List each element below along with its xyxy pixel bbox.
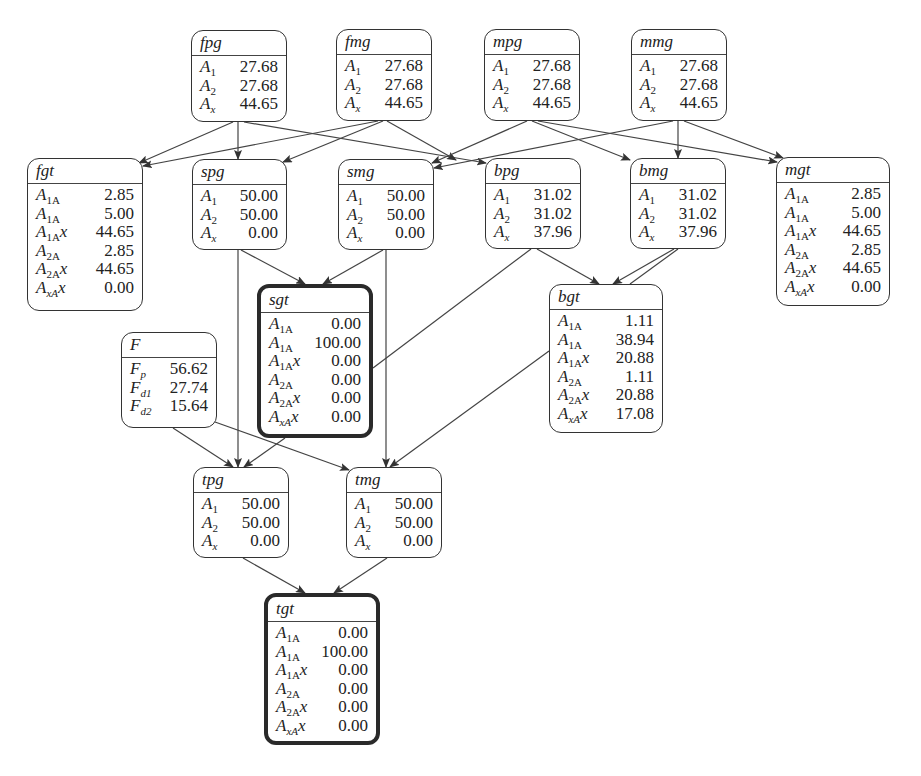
node-row: A2Ax20.88	[558, 386, 654, 405]
row-label: A1A	[785, 185, 809, 204]
node-fpg[interactable]: fpg A127.68A227.68Ax44.65	[191, 30, 287, 122]
node-F[interactable]: F Fp56.62Fd127.74Fd215.64	[121, 332, 217, 428]
node-bgt[interactable]: bgt A1A1.11A1A38.94A1Ax20.88A2A1.11A2Ax2…	[549, 284, 663, 433]
row-label: A2A	[785, 241, 809, 260]
edge-mmg-mgt	[684, 121, 783, 158]
node-fgt[interactable]: fgt A1A2.85A1A5.00A1Ax44.65A2A2.85A2Ax44…	[27, 158, 143, 311]
row-value: 1.11	[625, 368, 654, 387]
node-row: A227.68	[640, 76, 718, 95]
node-rows: A1A0.00A1A100.00A1Ax0.00A2A0.00A2Ax0.00A…	[268, 622, 376, 739]
node-row: A150.00	[201, 187, 278, 206]
row-label: Ax	[640, 94, 655, 113]
node-tmg[interactable]: tmg A150.00A250.00Ax0.00	[346, 467, 442, 558]
row-label: Fp	[130, 360, 146, 379]
node-bmg[interactable]: bmg A131.02A231.02Ax37.96	[630, 158, 726, 249]
node-rows: A150.00A250.00Ax0.00	[347, 493, 441, 555]
node-title: mgt	[777, 158, 889, 183]
row-value: 44.65	[680, 94, 718, 113]
edge-mpg-smg	[432, 121, 527, 163]
node-row: A131.02	[639, 186, 717, 205]
node-row: A250.00	[347, 206, 425, 225]
node-smg[interactable]: smg A150.00A250.00Ax0.00	[338, 159, 434, 250]
node-row: AxAx0.00	[785, 278, 881, 297]
row-label: Ax	[493, 94, 508, 113]
row-label: A1	[201, 187, 217, 206]
node-spg[interactable]: spg A150.00A250.00Ax0.00	[192, 159, 287, 250]
node-row: A150.00	[347, 187, 425, 206]
row-value: 0.00	[104, 279, 134, 298]
node-title: smg	[339, 160, 433, 185]
node-row: A2A1.11	[558, 368, 654, 387]
node-row: A1A5.00	[785, 204, 881, 223]
node-tpg[interactable]: tpg A150.00A250.00Ax0.00	[193, 467, 289, 558]
node-sgt[interactable]: sgt A1A0.00A1A100.00A1Ax0.00A2A0.00A2Ax0…	[257, 284, 373, 438]
node-rows: A1A2.85A1A5.00A1Ax44.65A2A2.85A2Ax44.65A…	[28, 184, 142, 301]
row-label: Ax	[202, 532, 217, 551]
node-mgt[interactable]: mgt A1A2.85A1A5.00A1Ax44.65A2A2.85A2Ax44…	[776, 157, 890, 306]
row-value: 27.68	[240, 77, 278, 96]
row-value: 2.85	[851, 185, 881, 204]
node-row: A1A100.00	[276, 643, 368, 662]
node-row: A1Ax20.88	[558, 349, 654, 368]
row-label: A1A	[36, 205, 60, 224]
row-value: 50.00	[395, 514, 433, 533]
node-row: AxAx0.00	[36, 279, 134, 298]
node-tgt[interactable]: tgt A1A0.00A1A100.00A1Ax0.00A2A0.00A2Ax0…	[264, 593, 380, 745]
row-value: 31.02	[534, 186, 572, 205]
row-value: 27.68	[385, 57, 423, 76]
node-row: Ax0.00	[347, 224, 425, 243]
row-label: A2A	[269, 371, 293, 390]
edge-sgt-tpg	[244, 438, 285, 467]
node-row: A1A2.85	[785, 185, 881, 204]
row-label: A1	[639, 186, 655, 205]
row-value: 0.00	[338, 698, 368, 717]
edge-fmg-bgt_via	[387, 121, 456, 160]
row-label: A2A	[276, 680, 300, 699]
node-fmg[interactable]: fmg A127.68A227.68Ax44.65	[336, 29, 432, 121]
node-mpg[interactable]: mpg A127.68A227.68Ax44.65	[484, 29, 580, 121]
row-label: A1	[355, 495, 371, 514]
row-value: 27.68	[533, 57, 571, 76]
edge-mpg-mgt	[538, 121, 777, 162]
node-title: mpg	[485, 30, 579, 55]
node-mmg[interactable]: mmg A127.68A227.68Ax44.65	[631, 29, 727, 121]
node-title: tmg	[347, 468, 441, 493]
node-title: bpg	[486, 159, 580, 184]
row-label: Ax	[200, 95, 215, 114]
row-label: A2Ax	[785, 259, 816, 278]
node-title: bmg	[631, 159, 725, 184]
node-rows: A127.68A227.68Ax44.65	[632, 55, 726, 117]
node-row: A227.68	[493, 76, 571, 95]
node-row: A2A2.85	[785, 241, 881, 260]
node-row: A227.68	[200, 77, 278, 96]
edge-bmg-bgt2	[630, 249, 678, 284]
edge-bgt-tmg	[390, 351, 549, 467]
row-label: A2	[200, 77, 216, 96]
row-label: A1Ax	[269, 352, 300, 371]
node-row: A150.00	[355, 495, 433, 514]
node-row: A1Ax44.65	[785, 222, 881, 241]
row-label: Ax	[347, 224, 362, 243]
row-value: 44.65	[843, 259, 881, 278]
row-value: 0.00	[248, 224, 278, 243]
row-value: 0.00	[331, 315, 361, 334]
row-label: A1	[345, 57, 361, 76]
row-value: 27.68	[533, 76, 571, 95]
node-title: spg	[193, 160, 286, 185]
row-value: 0.00	[331, 352, 361, 371]
row-label: A1A	[558, 312, 582, 331]
node-row: Fd127.74	[130, 379, 208, 398]
node-row: Ax37.96	[494, 223, 572, 242]
node-title: bgt	[550, 285, 662, 310]
row-label: A2Ax	[558, 386, 589, 405]
row-label: Fd1	[130, 379, 151, 398]
node-bpg[interactable]: bpg A131.02A231.02Ax37.96	[485, 158, 581, 249]
node-row: A1A1.11	[558, 312, 654, 331]
row-label: AxAx	[269, 408, 299, 427]
row-label: A1Ax	[558, 349, 589, 368]
node-row: A2Ax44.65	[785, 259, 881, 278]
row-value: 31.02	[679, 205, 717, 224]
row-value: 27.68	[240, 58, 278, 77]
row-label: A1A	[558, 331, 582, 350]
row-label: A1A	[276, 624, 300, 643]
